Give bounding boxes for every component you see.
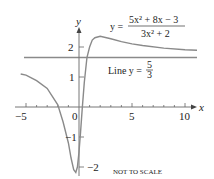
y-axis-arrow-icon [77,27,82,33]
function-graph: y x −5 0 5 10 2 1 −1 −2 y = 5x² + 8x − 3… [0,0,214,179]
x-tick-label: 5 [129,110,135,122]
y-tick-label: 2 [68,41,74,53]
y-tick-label: −1 [65,131,77,143]
svg-text:3: 3 [147,69,152,80]
x-tick-label: 0 [72,110,78,122]
formula-annotation: y = 5x² + 8x − 3 3x² + 2 [110,14,185,39]
asymptote-annotation: Line y = 5 3 [108,59,153,80]
y-tick-label: −2 [87,161,99,173]
svg-text:Line y =: Line y = [108,65,142,76]
x-axis-ticks [26,103,185,107]
y-axis-label: y [75,15,81,27]
x-axis-arrow-icon [191,105,197,110]
svg-text:5x² + 8x − 3: 5x² + 8x − 3 [129,14,178,25]
function-curve [21,36,197,172]
y-tick-label: 1 [69,71,75,83]
x-tick-label: 10 [179,110,191,122]
svg-text:3x² + 2: 3x² + 2 [141,28,170,39]
x-tick-label: −5 [15,110,27,122]
svg-text:y =: y = [110,21,124,32]
not-to-scale-note: NOT TO SCALE [113,168,162,176]
x-axis-label: x [198,101,204,113]
